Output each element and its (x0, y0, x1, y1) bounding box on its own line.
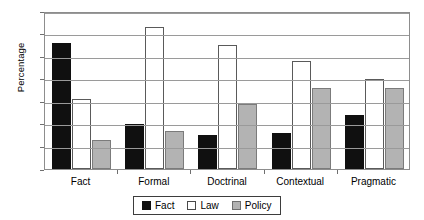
bar-policy (385, 88, 404, 169)
y-axis-tick-mark (40, 57, 44, 58)
bar-group (191, 13, 264, 169)
gridline (45, 13, 409, 14)
x-axis-tick-label: Doctrinal (207, 176, 246, 187)
legend-item-fact: Fact (142, 201, 174, 211)
bar-fact (345, 115, 364, 169)
bar-group (338, 13, 411, 169)
legend-swatch-fact (142, 201, 151, 210)
x-axis-tick-label: Contextual (276, 176, 324, 187)
legend-label-fact: Fact (155, 201, 174, 211)
bar-law (72, 99, 91, 169)
bar-law (365, 79, 384, 169)
gridline (45, 125, 409, 126)
y-axis-tick-mark (40, 147, 44, 148)
x-axis-tick-label: Pragmatic (351, 176, 396, 187)
gridline (45, 103, 409, 104)
x-axis-tick-label: Formal (138, 176, 169, 187)
gridline (45, 148, 409, 149)
y-axis-tick-mark (40, 170, 44, 171)
bar-law (292, 61, 311, 169)
bar-law (218, 45, 237, 169)
legend-label-policy: Policy (245, 201, 272, 211)
legend-item-policy: Policy (232, 201, 272, 211)
bars-layer (45, 13, 409, 169)
x-axis-tick-mark (337, 170, 338, 174)
y-axis-tick-mark (40, 124, 44, 125)
y-axis-tick-mark (40, 12, 44, 13)
y-axis-tick-mark (40, 34, 44, 35)
legend-swatch-policy (232, 201, 241, 210)
bar-fact (272, 133, 291, 169)
gridline (45, 80, 409, 81)
gridline (45, 35, 409, 36)
bar-fact (52, 43, 71, 169)
x-axis-tick-mark (117, 170, 118, 174)
y-axis-tick-mark (40, 79, 44, 80)
bar-group (265, 13, 338, 169)
x-axis-tick-mark (264, 170, 265, 174)
gridline (45, 58, 409, 59)
bar-chart: Percentage 010203040506070FactFormalDoct… (0, 0, 424, 220)
x-axis-tick-label: Fact (71, 176, 90, 187)
y-axis-tick-mark (40, 102, 44, 103)
plot-area (44, 12, 410, 170)
bar-policy (312, 88, 331, 169)
y-axis-title: Percentage (15, 18, 26, 118)
bar-policy (92, 140, 111, 169)
x-axis-tick-mark (190, 170, 191, 174)
legend-item-law: Law (187, 201, 218, 211)
chart-legend: Fact Law Policy (133, 196, 281, 215)
bar-policy (165, 131, 184, 169)
bar-fact (125, 124, 144, 169)
bar-fact (198, 135, 217, 169)
legend-label-law: Law (200, 201, 218, 211)
bar-policy (238, 104, 257, 169)
bar-group (118, 13, 191, 169)
bar-group (45, 13, 118, 169)
legend-swatch-law (187, 201, 196, 210)
